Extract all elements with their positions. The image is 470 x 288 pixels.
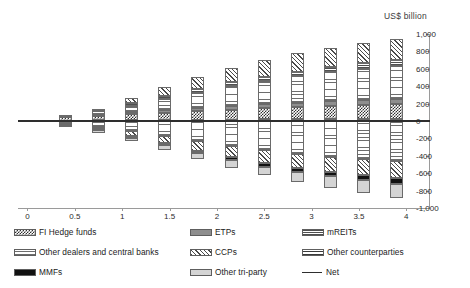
category-axis-tick xyxy=(312,208,313,211)
legend-swatch xyxy=(14,269,36,276)
bar-segment xyxy=(390,66,403,99)
bar-segment xyxy=(390,104,403,118)
bar-segment xyxy=(258,60,271,77)
bar-segment xyxy=(225,110,238,120)
bar-segment xyxy=(258,108,271,119)
value-axis-tick-label: 800 xyxy=(416,47,429,56)
legend-label: Other dealers and central banks xyxy=(39,247,159,257)
bar-segment xyxy=(158,87,171,96)
category-axis-tick xyxy=(75,208,76,211)
bar-segment xyxy=(357,105,370,119)
legend-label: mREITs xyxy=(327,227,356,237)
bar-segment xyxy=(258,81,271,104)
bar-segment xyxy=(158,145,171,150)
category-axis-tick xyxy=(359,208,360,211)
bar-segment xyxy=(324,48,337,68)
legend-label: CCPs xyxy=(215,247,237,257)
plot-area: 00.511.522.533.54 xyxy=(18,34,430,208)
legend-label: Net xyxy=(326,267,339,277)
legend-item: Other counterparties xyxy=(302,242,468,262)
chart-legend: FI Hedge fundsOther dealers and central … xyxy=(14,222,460,282)
bar-segment xyxy=(291,53,304,71)
category-axis-tick-label: 0.5 xyxy=(69,212,80,221)
category-axis-tick-label: 3 xyxy=(309,212,313,221)
chart-root: US$ billion 00.511.522.533.54 FI Hedge f… xyxy=(0,0,470,288)
category-axis-line xyxy=(18,208,430,209)
bar-segment xyxy=(357,180,370,193)
bar-segment xyxy=(191,153,204,159)
legend-swatch xyxy=(190,229,212,236)
bar-segment xyxy=(357,69,370,100)
bar-segment xyxy=(191,141,204,150)
category-axis-tick-label: 2.5 xyxy=(259,212,270,221)
category-axis-tick xyxy=(122,208,123,211)
legend-item: Other tri-party xyxy=(190,262,320,282)
bar-segment xyxy=(258,121,271,150)
bar-segment xyxy=(258,167,271,176)
value-axis-tick-label: 1,000 xyxy=(416,30,436,39)
legend-swatch xyxy=(190,249,212,256)
legend-swatch xyxy=(302,229,324,236)
bar-segment xyxy=(191,121,204,141)
bar-segment xyxy=(225,121,238,146)
bar-segment xyxy=(125,121,138,131)
legend-item: FI Hedge funds xyxy=(14,222,200,242)
bar-segment xyxy=(191,77,204,89)
value-axis-tick-label: -1,000 xyxy=(416,204,439,213)
value-axis-tick-label: 400 xyxy=(416,82,429,91)
bar-segment xyxy=(390,161,403,178)
bar-segment xyxy=(191,111,204,120)
bar-segment xyxy=(59,125,72,127)
value-axis-tick-label: -800 xyxy=(416,186,432,195)
legend-item: Other dealers and central banks xyxy=(14,242,200,262)
bar-segment xyxy=(291,107,304,119)
category-axis-tick xyxy=(264,208,265,211)
category-axis-tick-label: 1 xyxy=(120,212,124,221)
bar-segment xyxy=(324,157,337,172)
legend-swatch xyxy=(302,249,324,256)
legend-item: MMFs xyxy=(14,262,200,282)
bar-segment xyxy=(191,93,204,109)
value-axis-tick-label: 600 xyxy=(416,64,429,73)
bar-segment xyxy=(291,76,304,103)
bar-segment xyxy=(390,39,403,61)
bar-segment xyxy=(158,99,171,110)
bar-segment xyxy=(291,154,304,168)
legend-item: CCPs xyxy=(190,242,320,262)
legend-item: ETPs xyxy=(190,222,320,242)
bar-segment xyxy=(324,106,337,119)
net-line xyxy=(18,120,430,122)
bar-segment xyxy=(291,121,304,154)
category-axis-tick xyxy=(217,208,218,211)
legend-item: Net xyxy=(302,262,468,282)
legend-column-1: FI Hedge fundsOther dealers and central … xyxy=(14,222,200,282)
category-axis-tick-label: 1.5 xyxy=(164,212,175,221)
category-axis-tick-label: 4 xyxy=(404,212,408,221)
bar-segment xyxy=(158,136,171,143)
value-axis-tick-label: -600 xyxy=(416,169,432,178)
bar-segment xyxy=(324,72,337,101)
category-axis-tick-label: 0 xyxy=(25,212,29,221)
bar-segment xyxy=(357,159,370,175)
bar-segment xyxy=(158,121,171,136)
bar-segment xyxy=(291,172,304,182)
bar-segment xyxy=(92,130,105,132)
bar-segment xyxy=(225,86,238,106)
legend-swatch xyxy=(14,249,36,256)
bar-segment xyxy=(324,121,337,157)
bar-segment xyxy=(125,106,138,113)
category-axis-tick xyxy=(27,208,28,211)
legend-item: mREITs xyxy=(302,222,468,242)
category-axis-tick xyxy=(406,208,407,211)
value-axis-tick-label: 0 xyxy=(416,117,420,126)
legend-label: FI Hedge funds xyxy=(39,227,96,237)
category-axis-tick-label: 2 xyxy=(215,212,219,221)
value-axis-tick-label: -200 xyxy=(416,134,432,143)
bar-segment xyxy=(357,121,370,159)
legend-label: MMFs xyxy=(39,267,62,277)
plot-inner: 00.511.522.533.54 xyxy=(18,34,430,208)
bar-segment xyxy=(225,160,238,167)
value-axis-tick-label: 200 xyxy=(416,99,429,108)
bar-segment xyxy=(357,43,370,64)
legend-label: ETPs xyxy=(215,227,235,237)
